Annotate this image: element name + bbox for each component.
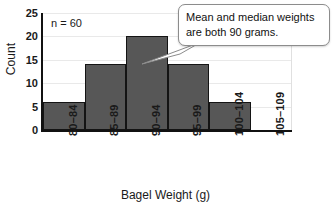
y-tick-label: 5 [4, 101, 38, 112]
x-tick-label: 95–99 [191, 76, 203, 136]
y-tick-label: 20 [4, 31, 38, 42]
callout-text: Mean and median weights are both 90 gram… [186, 10, 326, 40]
y-tick-label: 0 [4, 125, 38, 136]
histogram-figure: Count 0510152025 n = 60 80–8485–8990–949… [0, 0, 333, 213]
x-tick-label: 90–94 [150, 76, 162, 136]
x-tick-label: 105–109 [274, 76, 286, 136]
sample-size-annotation: n = 60 [51, 17, 82, 29]
x-tick-label: 85–89 [108, 76, 120, 136]
y-tick-label: 10 [4, 78, 38, 89]
y-tick-label: 15 [4, 54, 38, 65]
callout-line-2: are both 90 grams. [186, 26, 278, 38]
callout-line-1: Mean and median weights [186, 11, 314, 23]
x-tick-label: 100–104 [233, 76, 245, 136]
x-axis-title: Bagel Weight (g) [41, 188, 290, 202]
y-tick-label: 25 [4, 8, 38, 19]
mean-median-callout: Mean and median weights are both 90 gram… [178, 4, 330, 46]
y-axis-tick-labels: 0510152025 [0, 0, 38, 213]
x-tick-label: 80–84 [67, 76, 79, 136]
